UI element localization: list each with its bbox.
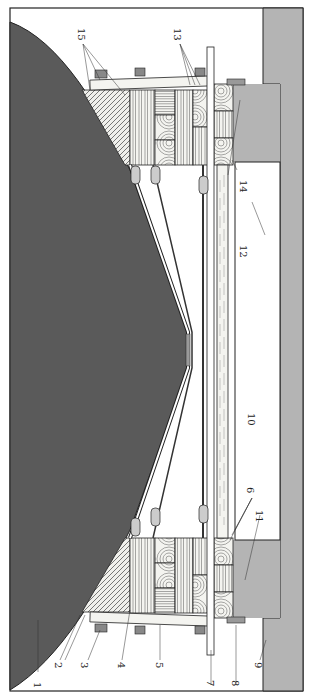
label-7: 7 — [205, 680, 216, 686]
label-12: 12 — [238, 245, 249, 258]
label-2: 2 — [53, 662, 64, 668]
vertical-rod — [207, 47, 214, 655]
gray-recess-bottom — [233, 540, 280, 618]
label-11: 11 — [254, 510, 265, 523]
label-14: 14 — [238, 180, 249, 193]
label-5: 5 — [154, 662, 165, 668]
label-4: 4 — [116, 662, 127, 668]
label-8: 8 — [230, 680, 241, 686]
label-1: 1 — [32, 682, 43, 688]
label-9: 9 — [253, 662, 264, 668]
diagram-canvas: 15 13 14 12 10 6 11 1 2 3 4 5 7 8 9 — [0, 0, 312, 699]
label-13: 13 — [172, 28, 183, 41]
label-6: 6 — [245, 487, 256, 493]
opening-box — [235, 162, 280, 540]
label-10: 10 — [246, 413, 257, 426]
label-3: 3 — [79, 662, 90, 668]
beam — [217, 165, 228, 538]
label-15: 15 — [76, 28, 87, 41]
gray-recess-top — [233, 84, 280, 162]
